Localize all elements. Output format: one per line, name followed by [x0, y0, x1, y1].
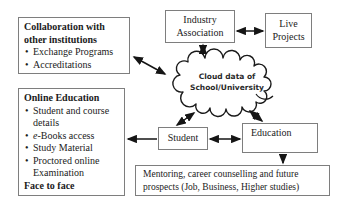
arrow-collaboration-cloud — [134, 57, 165, 74]
industry-association-box: Industry Association — [165, 10, 235, 43]
industry-association-label: Industry Association — [166, 14, 234, 39]
bullet-marker: • — [25, 46, 29, 59]
mentoring-box: Mentoring, career counselling and future… — [135, 165, 330, 196]
diagram-cloud-data-school-university: Collaboration with other institutions • … — [0, 0, 341, 207]
bullet-marker: • — [25, 59, 29, 72]
list-item: • Student and course details — [24, 105, 119, 130]
student-label: Student — [168, 132, 199, 145]
cloud-label: Cloud data of School/University — [181, 71, 273, 93]
online-education-footer: Face to face — [24, 180, 119, 193]
collaboration-box: Collaboration with other institutions • … — [18, 17, 130, 74]
bullet-text: Student and course details — [33, 105, 109, 129]
online-education-box: Online Education • Student and course de… — [18, 88, 125, 196]
collaboration-title: Collaboration with other institutions — [24, 21, 124, 46]
mentoring-label: Mentoring, career counselling and future… — [143, 169, 299, 192]
bullet-text: e-Books access — [33, 130, 94, 143]
arrow-cloud-education — [250, 111, 262, 121]
bullet-text: Accreditations — [33, 59, 91, 70]
bullet-marker: • — [25, 130, 29, 143]
collaboration-bullet-list: • Exchange Programs • Accreditations — [24, 46, 124, 71]
cloud-label-line1: Cloud data of — [181, 71, 273, 82]
list-item: • e-Books access — [24, 130, 119, 143]
list-item: • Proctored online Examination — [24, 155, 119, 180]
education-label: Education — [251, 127, 292, 138]
list-item: • Accreditations — [24, 59, 124, 72]
bullet-text: Exchange Programs — [33, 46, 113, 57]
arrow-cloud-student — [177, 113, 194, 125]
online-education-bullet-list: • Student and course details • e-Books a… — [24, 105, 119, 180]
bullet-marker: • — [25, 155, 29, 168]
online-education-title: Online Education — [24, 92, 119, 105]
cloud-label-line2: School/University — [181, 82, 273, 93]
live-projects-box: Live Projects — [265, 13, 312, 48]
live-projects-label: Live Projects — [266, 18, 311, 43]
bullet-text: Proctored online Examination — [33, 155, 99, 179]
bullet-text: Study Material — [33, 142, 93, 153]
bullet-marker: • — [25, 142, 29, 155]
student-box: Student — [158, 127, 208, 150]
education-box: Education — [242, 123, 318, 153]
bullet-marker: • — [25, 105, 29, 118]
list-item: • Exchange Programs — [24, 46, 124, 59]
list-item: • Study Material — [24, 142, 119, 155]
